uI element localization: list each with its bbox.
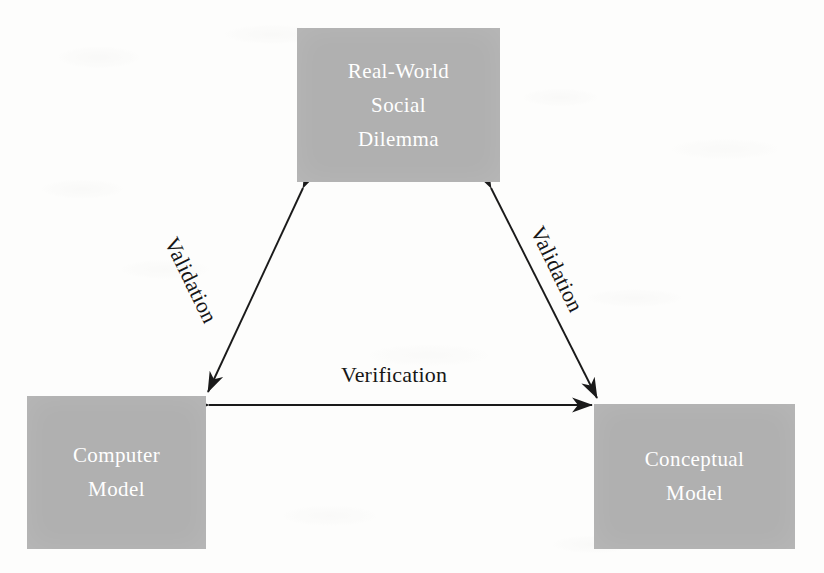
node-label-line-3: Dilemma bbox=[358, 122, 439, 156]
node-real-world-social-dilemma: Real-World Social Dilemma bbox=[297, 28, 500, 182]
edge-label-verification: Verification bbox=[341, 362, 447, 388]
node-label-line-2: Model bbox=[88, 472, 145, 506]
diagram-canvas: Real-World Social Dilemma Computer Model… bbox=[0, 0, 824, 573]
node-label-line-1: Computer bbox=[73, 438, 160, 472]
node-computer-model: Computer Model bbox=[27, 396, 206, 549]
node-label-line-2: Social bbox=[371, 88, 426, 122]
edge-validation-left bbox=[208, 188, 303, 392]
node-label-line-2: Model bbox=[666, 476, 723, 510]
node-label-line-1: Conceptual bbox=[645, 442, 745, 476]
node-conceptual-model: Conceptual Model bbox=[594, 404, 795, 549]
node-label-line-1: Real-World bbox=[348, 54, 449, 88]
